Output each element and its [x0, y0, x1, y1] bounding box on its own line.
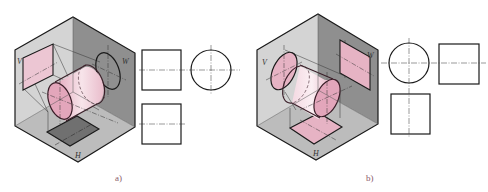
side-view-rectangle-b — [439, 44, 479, 84]
diagram-root: V W H — [0, 0, 488, 192]
figure-a: V W H — [15, 17, 240, 162]
top-view-rectangle-b — [391, 94, 430, 134]
projection-diagram: V W H — [0, 0, 488, 192]
orthographic-views-b — [381, 38, 486, 138]
caption-b: b) — [366, 173, 374, 183]
figure-b: V W H — [257, 14, 486, 160]
caption-a: a) — [115, 173, 122, 183]
orthographic-views-a — [139, 45, 240, 144]
